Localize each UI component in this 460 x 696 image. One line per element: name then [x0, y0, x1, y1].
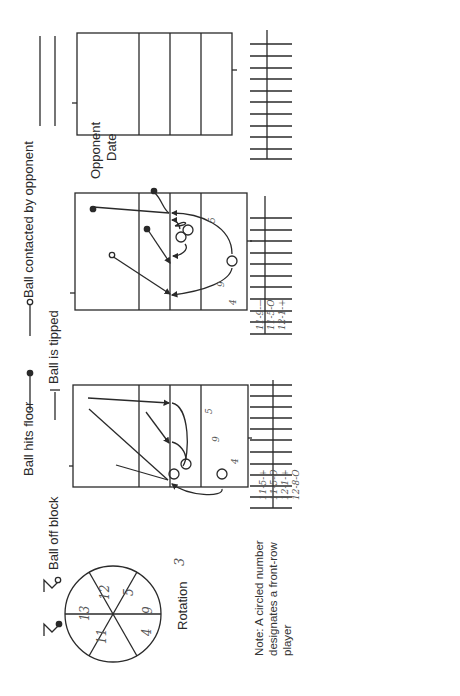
rotation-label: Rotation [175, 582, 190, 630]
final-graphics [0, 0, 460, 696]
attack-entry: 11-9-— [255, 298, 265, 330]
legend-ball-off-block: Ball off block [46, 497, 61, 570]
wheel-pos-4: 4 [140, 628, 154, 636]
attack-entry: 11-5-+ [258, 469, 268, 500]
wheel-pos-11: 11 [95, 629, 109, 644]
court-2-back-9: 9 [216, 281, 226, 287]
scouting-sheet-page: Ball hits floor Ball contacted by oppone… [0, 0, 460, 696]
date-label: Date [104, 134, 119, 161]
legend-ball-is-tipped: Ball is tipped [46, 310, 61, 384]
opponent-label: Opponent [88, 122, 103, 179]
front-row-note: Note: A circled number designates a fron… [252, 516, 294, 656]
rotation-value: 3 [172, 558, 187, 566]
attack-entry: 12-1-+ [280, 469, 290, 500]
wheel-pos-13: 13 [78, 606, 92, 621]
attack-entry: 11-5-O [269, 469, 279, 500]
wheel-pos-5: 5 [122, 588, 136, 596]
legend-ball-contacted-by-opponent: Ball contacted by opponent [21, 141, 36, 298]
wheel-pos-9: 9 [141, 606, 155, 614]
attack-entry: 12-1-+ [277, 299, 287, 330]
attack-entry: 11-5-O [266, 299, 276, 330]
attack-entry: 12-8-O [291, 469, 301, 500]
wheel-pos-12: 12 [98, 585, 112, 600]
court-2-back-4: 4 [228, 299, 238, 305]
court-1-back-9: 9 [211, 436, 221, 442]
court-2-back-5: 5 [207, 217, 217, 223]
legend-ball-hits-floor: Ball hits floor [21, 402, 36, 476]
court-1-back-4: 4 [230, 458, 240, 464]
court-1-back-5: 5 [204, 408, 214, 414]
